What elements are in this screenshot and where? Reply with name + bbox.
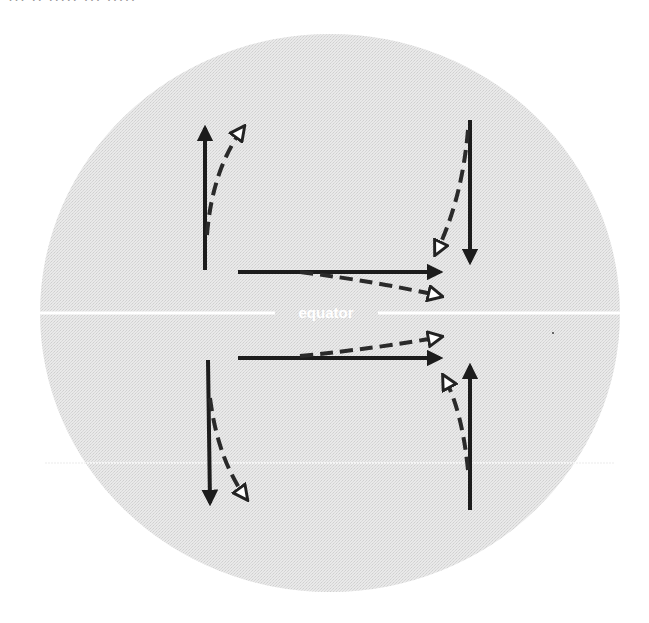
globe-figure: equator: [0, 0, 649, 623]
speck: [552, 332, 554, 334]
equator-label: equator: [298, 304, 353, 321]
intended-path-arrow: [208, 360, 210, 503]
coriolis-diagram: ··· ·· ····· ··· ····· equator: [0, 0, 649, 623]
